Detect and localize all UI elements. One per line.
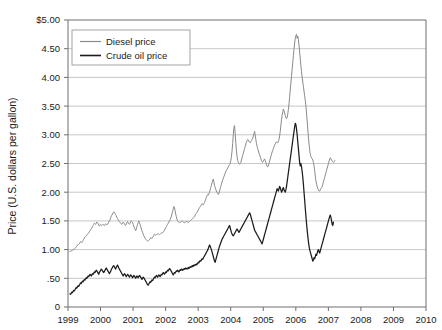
x-tick-label: 2005 [253,314,274,325]
y-tick-label: 3.00 [42,129,61,140]
gridlines [68,49,426,279]
y-tick-label: 4.00 [42,72,61,83]
x-tick-label: 2010 [415,314,436,325]
y-tick-label: 1.50 [42,215,61,226]
x-tick-label: 2007 [318,314,339,325]
series-line-crude-oil-price [70,123,334,294]
y-tick-label: 2.50 [42,158,61,169]
chart-legend: Diesel price Crude oil price [72,30,190,65]
legend-label-diesel-price: Diesel price [106,36,156,47]
y-tick-label: 2.00 [42,187,61,198]
x-tick-label: 2004 [220,314,241,325]
x-tick-label: 2002 [155,314,176,325]
x-tick-label: 2003 [188,314,209,325]
x-tick-label: 1999 [57,314,78,325]
y-tick-label: .50 [47,273,60,284]
line-chart: 0.501.001.502.002.503.003.504.004.50$5.0… [0,0,442,330]
series-line-diesel-price [70,34,335,251]
y-tick-label: $5.00 [36,14,60,25]
y-tick-label: 4.50 [42,43,61,54]
legend-label-crude-oil-price: Crude oil price [106,50,167,61]
x-axis-ticks: 1999200020012002200320042005200620072008… [57,307,436,325]
x-tick-label: 2000 [90,314,111,325]
x-tick-label: 2008 [350,314,371,325]
x-tick-label: 2009 [383,314,404,325]
y-axis-ticks: 0.501.001.502.002.503.003.504.004.50$5.0… [36,14,68,312]
y-axis-title: Price (U.S. dollars per gallon) [6,97,18,234]
y-tick-label: 0 [55,301,60,312]
x-tick-label: 2006 [285,314,306,325]
x-tick-label: 2001 [123,314,144,325]
y-tick-label: 1.00 [42,244,61,255]
y-tick-label: 3.50 [42,101,61,112]
chart-figure: 0.501.001.502.002.503.003.504.004.50$5.0… [0,0,442,330]
